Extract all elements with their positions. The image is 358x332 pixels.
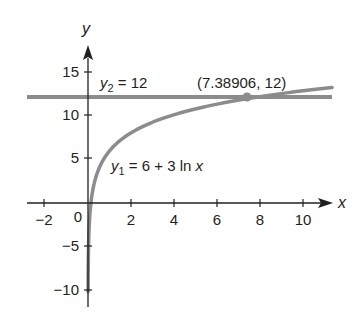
x-tick-label: 6: [213, 211, 221, 228]
x-axis-label: x: [337, 194, 347, 211]
chart: y x −2 0 2 4 6 8 10 15 10 5 −5 −10 y2 = …: [0, 0, 358, 332]
y-axis-arrow-icon: [83, 45, 93, 60]
x-tick-label: 8: [256, 211, 264, 228]
x-tick-label: 4: [170, 211, 178, 228]
x-tick-label: 2: [127, 211, 135, 228]
intersection-label: (7.38906, 12): [197, 74, 286, 91]
y1-curve: [88, 88, 332, 292]
y-tick-label: −5: [62, 237, 79, 254]
y-tick-label: 15: [62, 63, 79, 80]
x-tick-label: 10: [295, 211, 312, 228]
origin-label: 0: [74, 208, 82, 225]
y-tick-label: −10: [54, 281, 79, 298]
intersection-point: [243, 93, 252, 102]
y2-equation-label: y2 = 12: [99, 74, 147, 94]
y-tick-label: 5: [71, 149, 79, 166]
y-tick-label: 10: [62, 106, 79, 123]
x-tick-label: −2: [35, 211, 52, 228]
y1-equation-label: y1 = 6 + 3 ln x: [110, 157, 204, 177]
y-axis-label: y: [81, 20, 91, 37]
